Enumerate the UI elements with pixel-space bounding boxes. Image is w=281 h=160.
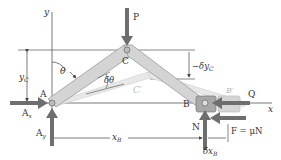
force-p-arrowhead [121,36,133,46]
pin-c [124,47,130,53]
point-b-prime-label: B′ [225,86,234,95]
point-a-label: A [39,89,47,99]
pin-b [202,100,208,106]
force-q-arrow-shaft [220,101,250,105]
force-p-arrow-shaft [125,8,129,38]
x-axis-label: x [268,104,273,114]
virtual-work-diagram: y x C′ B′ A C B P Ax Ay Q N F = μN yC [0,0,281,160]
point-b-label: B [183,99,190,109]
force-f-arrow-shaft [218,116,246,120]
point-c-prime-label: C′ [133,85,142,95]
force-ax-arrow-shaft [10,101,40,105]
y-axis-label: y [43,7,50,17]
delta-theta-label: δθ [104,75,114,85]
force-n-label: N [192,122,200,132]
member-ac [48,45,132,107]
yc-dimension-label: yC [18,72,29,83]
pin-a [49,100,55,106]
delta-yc-dimension-label: −δyC [192,61,214,72]
delta-xb-dimension-label: δxB [203,146,218,157]
force-f-arrowhead [210,112,220,124]
force-ay-arrow-shaft [50,116,54,146]
point-c-label: C [122,56,129,66]
theta-label: θ [60,66,66,76]
force-f-label: F = μN [231,126,263,136]
force-ax-label: Ax [21,108,33,119]
delta-theta-ref-2 [86,84,124,94]
force-q-label: Q [248,89,255,99]
force-p-label: P [133,12,139,22]
force-ay-arrowhead [46,108,58,118]
theta-leader [70,72,76,78]
force-ay-label: Ay [35,128,47,140]
